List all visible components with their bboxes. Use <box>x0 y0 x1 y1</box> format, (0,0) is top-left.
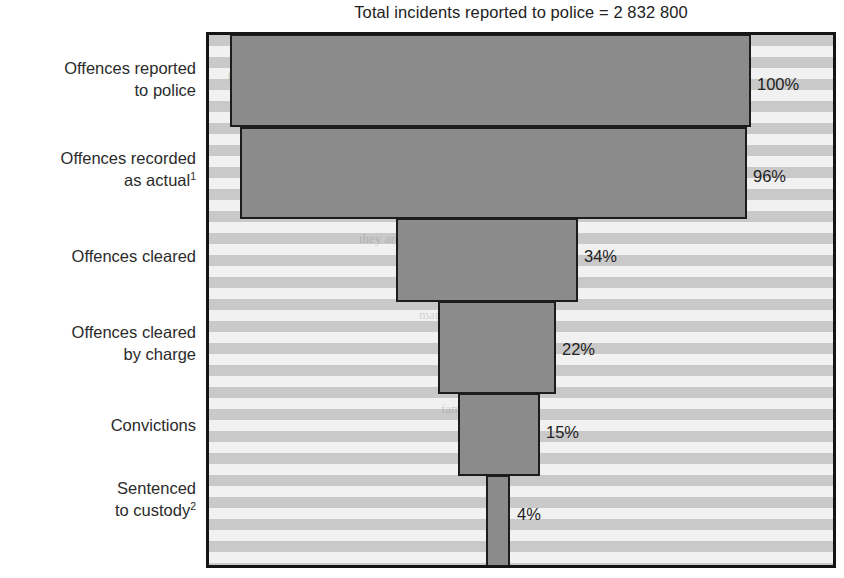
category-label-offences-cleared: Offences cleared <box>0 245 196 267</box>
footnote-marker-1: 1 <box>190 170 196 182</box>
value-label-offences-cleared-by-charge: 22% <box>562 340 595 359</box>
value-label-sentenced-to-custody: 4% <box>517 505 541 524</box>
plot-area-frame: are explanation does not hold for childr… <box>206 32 836 568</box>
value-label-convictions: 15% <box>546 423 579 442</box>
category-label-line1: Offences recorded <box>61 149 196 167</box>
category-label-line1: Sentenced <box>117 479 196 497</box>
category-label-line2: to custody <box>115 501 190 519</box>
funnel-bar-offences-cleared-by-charge <box>438 301 556 394</box>
category-label-line1: Offences cleared <box>72 247 196 265</box>
value-label-offences-reported-to-police: 100% <box>757 75 799 94</box>
category-label-line2: by charge <box>124 345 196 363</box>
value-label-offences-recorded-as-actual: 96% <box>753 167 786 186</box>
category-label-offences-cleared-by-charge: Offences cleared by charge <box>0 321 196 365</box>
category-label-convictions: Convictions <box>0 414 196 436</box>
category-label-column: Offences reported to police Offences rec… <box>0 32 196 568</box>
chart-title: Total incidents reported to police = 2 8… <box>206 3 836 22</box>
funnel-bar-sentenced-to-custody <box>486 475 510 568</box>
funnel-bar-convictions <box>458 393 540 476</box>
footnote-marker-2: 2 <box>190 500 196 512</box>
category-label-line1: Offences cleared <box>72 323 196 341</box>
category-label-line1: Offences reported <box>64 59 196 77</box>
category-label-sentenced-to-custody: Sentenced to custody2 <box>0 477 196 521</box>
category-label-line2: as actual <box>124 171 190 189</box>
funnel-chart-figure: Total incidents reported to police = 2 8… <box>0 0 844 578</box>
funnel-bar-offences-reported-to-police <box>230 34 751 127</box>
category-label-line2: to police <box>135 81 196 99</box>
funnel-bar-offences-cleared <box>396 218 578 302</box>
category-label-line1: Convictions <box>111 416 196 434</box>
funnel-bar-group <box>209 35 833 565</box>
category-label-offences-recorded-as-actual: Offences recorded as actual1 <box>0 147 196 191</box>
value-label-offences-cleared: 34% <box>584 247 617 266</box>
category-label-offences-reported-to-police: Offences reported to police <box>0 57 196 101</box>
funnel-bar-offences-recorded-as-actual <box>240 127 747 219</box>
